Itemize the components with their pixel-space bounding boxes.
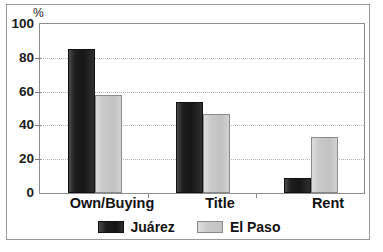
y-axis-tick-80 (35, 58, 41, 59)
plot-rect (39, 23, 365, 194)
legend-label-juarez: Juárez (131, 219, 175, 235)
legend-entry-el-paso: El Paso (197, 219, 281, 235)
y-tick-label: 0 (26, 185, 34, 200)
bar-juarez-rent (284, 178, 311, 193)
legend-swatch-light-icon (197, 221, 223, 233)
bar-juarez-own-buying (68, 49, 95, 193)
bar-el-paso-own-buying (95, 95, 122, 193)
legend-label-el-paso: El Paso (230, 219, 281, 235)
chart-legend: Juárez El Paso (7, 217, 371, 237)
x-label-own-buying: Own/Buying (70, 195, 155, 211)
x-axis-category-labels: Own/Buying Title Rent (39, 195, 365, 217)
bar-el-paso-title (203, 114, 230, 193)
chart-plot-area: % 100 80 60 40 20 0 (7, 5, 371, 211)
y-tick-label: 100 (11, 16, 34, 31)
y-axis-tick-labels: 100 80 60 40 20 0 (7, 5, 37, 211)
bar-juarez-title (176, 102, 203, 193)
y-tick-label: 80 (19, 49, 34, 64)
y-tick-label: 60 (19, 83, 34, 98)
y-tick-label: 40 (19, 117, 34, 132)
x-label-rent: Rent (312, 195, 344, 211)
legend-swatch-dark-icon (98, 221, 124, 233)
y-axis-tick-40 (35, 125, 41, 126)
chart-figure: % 100 80 60 40 20 0 (6, 4, 370, 240)
legend-entry-juarez: Juárez (98, 219, 175, 235)
y-tick-label: 20 (19, 151, 34, 166)
y-axis-tick-20 (35, 159, 41, 160)
y-axis-tick-60 (35, 92, 41, 93)
x-label-title: Title (205, 195, 235, 211)
bar-el-paso-rent (311, 137, 338, 193)
